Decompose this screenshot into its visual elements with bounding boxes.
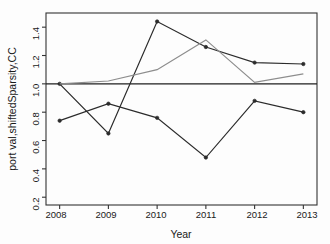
y-tick-label: 1.0 — [30, 84, 41, 97]
line-chart: port val,shiftedSparsity,CC Year 0.2 0.4… — [0, 0, 330, 244]
x-tick-label: 2008 — [45, 209, 66, 220]
x-tick-label: 2009 — [95, 209, 116, 220]
y-tick-label: 1.2 — [30, 55, 41, 68]
x-tick-labels: 2008 2009 2010 2011 2012 2013 — [45, 209, 317, 220]
x-tick-label: 2011 — [196, 209, 216, 220]
data-point — [253, 99, 256, 102]
y-tick-label: 0.2 — [30, 197, 41, 210]
data-point — [155, 116, 158, 119]
series-line-series-upper-dark — [60, 22, 304, 134]
y-tick-label: 0.4 — [30, 169, 41, 182]
data-point — [107, 102, 110, 105]
x-tick-label: 2012 — [246, 209, 267, 220]
y-axis-title: port val,shiftedSparsity,CC — [6, 47, 18, 171]
series-line-series-lower-dark — [60, 101, 304, 158]
data-point — [58, 119, 61, 122]
x-tick-label: 2010 — [145, 209, 166, 220]
x-tick-label: 2013 — [296, 209, 317, 220]
data-point — [302, 110, 305, 113]
data-point — [155, 20, 158, 23]
series-group — [58, 20, 305, 159]
y-tick-label: 1.4 — [30, 27, 41, 40]
x-axis-title: Year — [170, 228, 192, 240]
y-tick-labels: 0.2 0.4 0.6 0.8 1.0 1.2 1.4 — [30, 27, 41, 211]
series-line-series-gray — [60, 40, 304, 84]
y-tick-label: 0.8 — [30, 112, 41, 125]
plot-frame — [46, 13, 317, 205]
chart-figure: port val,shiftedSparsity,CC Year 0.2 0.4… — [0, 0, 330, 244]
data-point — [302, 62, 305, 65]
data-point — [253, 61, 256, 64]
y-tick-label: 0.6 — [30, 141, 41, 154]
y-axis-ticks — [42, 27, 46, 197]
data-point — [204, 45, 207, 48]
data-point — [204, 156, 207, 159]
data-point — [107, 132, 110, 135]
